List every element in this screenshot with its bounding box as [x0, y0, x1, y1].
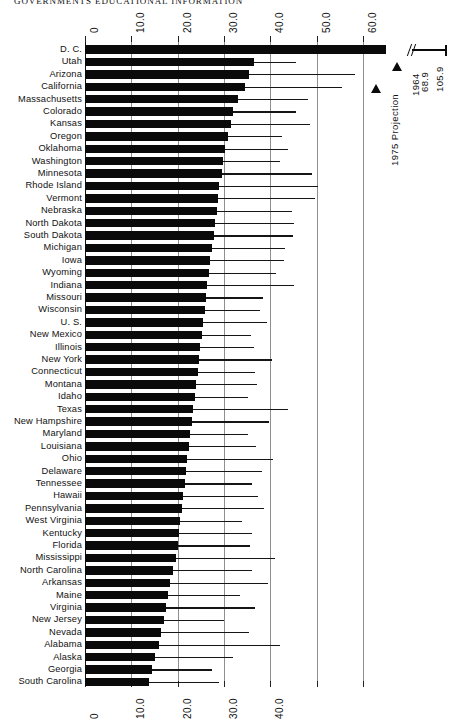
- bar-1964: [85, 430, 190, 438]
- x-label-bottom-20: 20.0: [182, 698, 193, 719]
- projection-1975-line: [233, 111, 296, 112]
- row-label: Utah: [0, 55, 82, 67]
- projection-1975-line: [180, 521, 242, 522]
- x-label-top-10: 10.0: [135, 12, 146, 33]
- x-label-bottom-0: 0: [89, 713, 100, 719]
- bar-1964: [85, 83, 245, 91]
- row-label: Nevada: [0, 626, 82, 638]
- row-label: Ohio: [0, 452, 82, 464]
- x-label-top-60: 60.0: [367, 12, 378, 33]
- projection-1975-line: [207, 285, 294, 286]
- projection-1975-line: [196, 384, 257, 385]
- chart-row: South Carolina: [0, 676, 452, 688]
- projection-1975-line: [179, 533, 252, 534]
- row-label: Florida: [0, 539, 82, 551]
- row-label: Maryland: [0, 427, 82, 439]
- bar-1964: [85, 603, 166, 611]
- projection-1975-line: [170, 583, 268, 584]
- row-label: New Hampshire: [0, 415, 82, 427]
- bar-1964: [85, 479, 185, 487]
- projection-1975-line: [193, 409, 288, 410]
- bar-1964: [85, 70, 249, 78]
- x-tick-top-0: [85, 36, 86, 42]
- row-label: Connecticut: [0, 365, 82, 377]
- axis-break-icon: [406, 44, 420, 56]
- projection-1975-line: [199, 359, 272, 360]
- axis-break-end-cap: [445, 45, 447, 56]
- projection-1975-line: [155, 657, 233, 658]
- projection-1975-line: [187, 459, 272, 460]
- bar-1964: [85, 665, 152, 673]
- row-label: Rhode Island: [0, 179, 82, 191]
- projection-1975-line: [238, 99, 308, 100]
- row-label: Delaware: [0, 465, 82, 477]
- x-label-bottom-10: 10.0: [135, 698, 146, 719]
- bar-1964: [85, 591, 168, 599]
- row-label: Minnesota: [0, 167, 82, 179]
- bar-1964: [85, 343, 200, 351]
- bar-1964: [85, 678, 149, 686]
- projection-1975-line: [209, 273, 277, 274]
- bar-1964: [85, 417, 192, 425]
- row-label: Massachusetts: [0, 93, 82, 105]
- row-label: Michigan: [0, 241, 82, 253]
- projection-1975-line: [202, 335, 252, 336]
- projection-1975-line: [176, 558, 275, 559]
- projection-1975-line: [217, 211, 292, 212]
- row-label: Maine: [0, 589, 82, 601]
- bar-1964: [85, 145, 225, 153]
- row-label: Kentucky: [0, 527, 82, 539]
- bar-1964: [85, 219, 215, 227]
- x-tick-top-60: [363, 36, 364, 42]
- bar-1964: [85, 579, 170, 587]
- legend-marker-1964: [392, 62, 402, 71]
- row-label: North Dakota: [0, 217, 82, 229]
- row-label: Iowa: [0, 254, 82, 266]
- projection-1975-line: [161, 632, 249, 633]
- legend-marker-1975: [371, 84, 381, 93]
- projection-1975-line: [212, 248, 285, 249]
- row-label: Texas: [0, 403, 82, 415]
- x-tick-top-30: [224, 36, 225, 42]
- x-label-bottom-30: 30.0: [228, 698, 239, 719]
- bar-1964: [85, 107, 233, 115]
- bar-1964: [85, 355, 199, 363]
- bar-1964: [85, 132, 228, 140]
- projection-1975-line: [215, 223, 294, 224]
- bar-1964: [85, 554, 176, 562]
- projection-1975-line: [168, 595, 240, 596]
- row-label: New Mexico: [0, 328, 82, 340]
- projection-1975-line: [218, 198, 315, 199]
- row-label: Pennsylvania: [0, 502, 82, 514]
- projection-1975-line: [219, 186, 318, 187]
- x-tick-top-20: [178, 36, 179, 42]
- chart-canvas: 010.020.030.040.050.060.0 010.020.030.04…: [0, 0, 452, 721]
- x-label-top-50: 50.0: [321, 12, 332, 33]
- bar-1964: [85, 492, 183, 500]
- projection-1975-line: [206, 297, 263, 298]
- row-label: Idaho: [0, 390, 82, 402]
- projection-1975-line: [166, 607, 255, 608]
- bar-1964: [85, 529, 179, 537]
- x-label-top-30: 30.0: [228, 12, 239, 33]
- row-label: South Carolina: [0, 675, 82, 687]
- bar-1964: [85, 380, 196, 388]
- row-label: New York: [0, 353, 82, 365]
- bar-1964: [85, 628, 161, 636]
- row-label: Wyoming: [0, 266, 82, 278]
- row-label: Alabama: [0, 638, 82, 650]
- projection-1975-line: [149, 682, 219, 683]
- x-label-top-0: 0: [89, 27, 100, 33]
- bar-1964: [85, 244, 212, 252]
- projection-1975-line: [198, 372, 256, 373]
- row-label: South Dakota: [0, 229, 82, 241]
- row-label: North Carolina: [0, 564, 82, 576]
- row-label: Mississippi: [0, 551, 82, 563]
- bar-1964: [85, 641, 159, 649]
- projection-1975-line: [225, 149, 288, 150]
- row-label: U. S.: [0, 316, 82, 328]
- row-label: Washington: [0, 155, 82, 167]
- bar-1964: [85, 517, 180, 525]
- row-label: Arkansas: [0, 576, 82, 588]
- bar-1964: [85, 45, 386, 53]
